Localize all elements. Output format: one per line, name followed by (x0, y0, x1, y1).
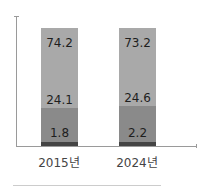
segment-bottom (41, 142, 78, 146)
divider (13, 185, 161, 186)
value-label-bottom: 1.8 (41, 126, 78, 140)
x-axis (16, 146, 197, 147)
bar-2015: 74.2 24.1 1.8 (41, 28, 78, 146)
x-axis-tick (196, 144, 197, 148)
value-label-middle: 24.1 (41, 93, 78, 107)
value-label-middle: 24.6 (119, 91, 156, 105)
x-label-2015: 2015년 (29, 153, 89, 170)
y-axis (16, 16, 17, 146)
value-label-top: 73.2 (119, 36, 156, 50)
value-label-top: 74.2 (41, 36, 78, 50)
y-axis-tick (14, 16, 19, 17)
x-label-2024: 2024년 (107, 153, 167, 170)
bar-2024: 73.2 24.6 2.2 (119, 28, 156, 146)
segment-bottom (119, 142, 156, 146)
value-label-bottom: 2.2 (119, 126, 156, 140)
